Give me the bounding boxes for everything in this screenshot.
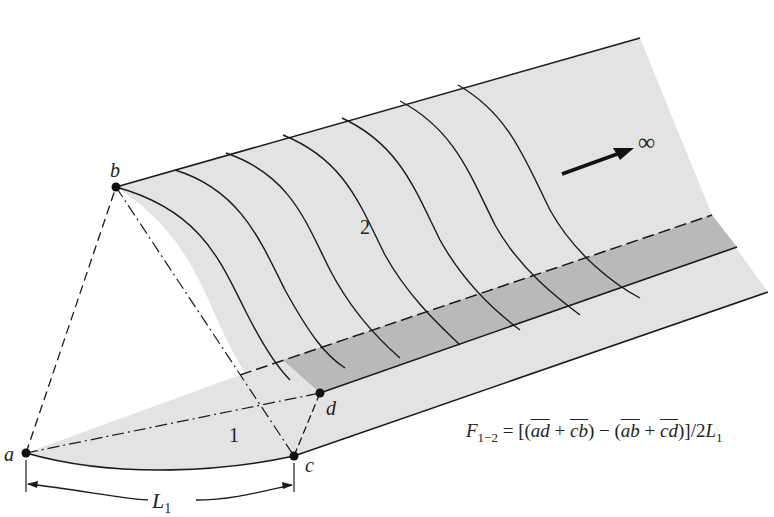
- dim-arrow-left: [27, 481, 38, 488]
- label-d: d: [326, 398, 336, 418]
- label-a: a: [4, 444, 14, 464]
- formula-L: L: [705, 420, 716, 441]
- line-a-b: [26, 187, 116, 453]
- surface-1-label: 1: [229, 425, 239, 445]
- formula-term-cb: cb: [570, 420, 588, 441]
- point-c: [290, 452, 299, 461]
- view-factor-formula: F1−2 = [(ad + cb) − (ab + cd)]/2L1: [466, 420, 723, 446]
- formula-term-ad: ad: [531, 420, 550, 441]
- formula-F: F: [466, 420, 478, 441]
- formula-plus: +: [640, 420, 660, 441]
- dim-arrow-right: [282, 482, 293, 489]
- point-d: [316, 389, 325, 398]
- formula-F-sub: 1−2: [478, 430, 498, 445]
- formula-divide: )]/2: [678, 420, 705, 441]
- formula-term-ab: ab: [621, 420, 640, 441]
- formula-minus: ) − (: [588, 420, 621, 441]
- point-b: [112, 183, 121, 192]
- dimension-letter: L: [152, 488, 164, 513]
- surface-2-label: 2: [360, 217, 370, 237]
- formula-L-sub: 1: [716, 430, 723, 445]
- label-c: c: [305, 455, 314, 475]
- formula-equals: = [(: [498, 420, 531, 441]
- point-a: [22, 449, 31, 458]
- dimension-L1: L1: [148, 488, 175, 517]
- dimension-subscript: 1: [164, 501, 171, 516]
- formula-plus: +: [550, 420, 570, 441]
- surface-1-fill: [26, 375, 320, 470]
- label-b: b: [110, 160, 120, 180]
- infinity-symbol: ∞: [638, 130, 655, 154]
- formula-term-cd: cd: [660, 420, 678, 441]
